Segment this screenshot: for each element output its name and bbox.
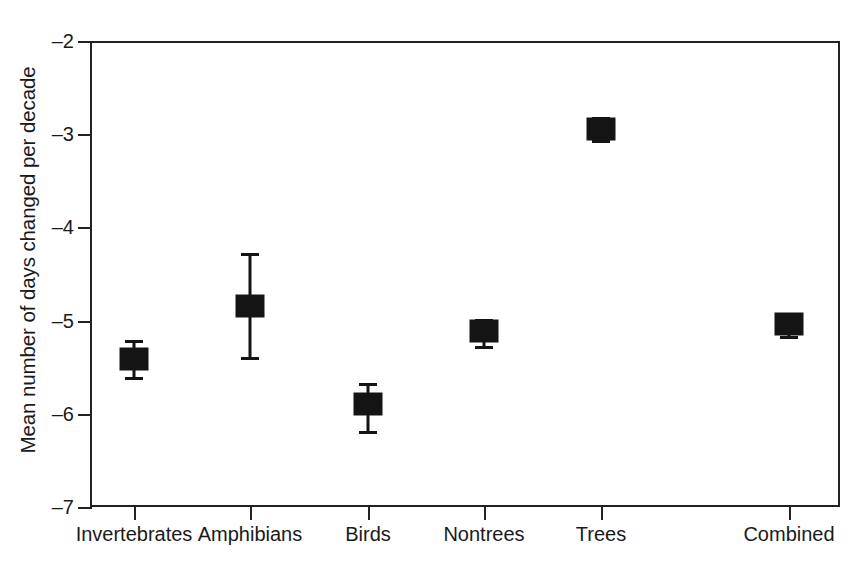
y-axis-tick [78, 41, 92, 43]
mean-marker [470, 319, 499, 342]
x-axis-tick-label-nontrees: Nontrees [443, 524, 524, 544]
y-axis-tick [78, 134, 92, 136]
error-bar-cap-upper [241, 253, 259, 256]
y-axis-tick [78, 227, 92, 229]
error-bar-cap-lower [592, 140, 610, 143]
plot-area-frame [90, 41, 840, 507]
mean-marker [775, 313, 804, 336]
y-axis-title-wrapper: Mean number of days changed per decade [0, 0, 56, 520]
y-axis-tick-label: –5 [38, 311, 74, 331]
y-axis-tick [78, 507, 92, 509]
figure-canvas: Mean number of days changed per decade –… [0, 0, 866, 564]
x-axis-tick [601, 507, 603, 520]
mean-marker [587, 117, 616, 140]
y-axis-tick [78, 321, 92, 323]
mean-marker [354, 393, 383, 416]
x-axis-tick-label-invertebrates: Invertebrates [76, 524, 193, 544]
y-axis-title: Mean number of days changed per decade [16, 66, 40, 453]
error-bar-cap-lower [359, 431, 377, 434]
y-axis-tick-label: –7 [38, 497, 74, 517]
y-axis-tick-label: –2 [38, 31, 74, 51]
error-bar-cap-lower [125, 377, 143, 380]
error-bar-cap-lower [780, 336, 798, 339]
mean-marker [120, 347, 149, 370]
x-axis-tick-label-combined: Combined [743, 524, 834, 544]
x-axis-tick [484, 507, 486, 520]
y-axis-tick [78, 414, 92, 416]
x-axis-tick [134, 507, 136, 520]
error-bar-cap-upper [125, 340, 143, 343]
error-bar-cap-upper [359, 383, 377, 386]
y-axis-tick-label: –4 [38, 217, 74, 237]
x-axis-tick-label-birds: Birds [345, 524, 391, 544]
x-axis-tick-label-trees: Trees [576, 524, 626, 544]
y-axis-tick-label: –3 [38, 124, 74, 144]
y-axis-tick-label: –6 [38, 404, 74, 424]
x-axis-tick [250, 507, 252, 520]
error-bar-cap-lower [475, 346, 493, 349]
x-axis-tick-label-amphibians: Amphibians [198, 524, 303, 544]
error-bar-cap-lower [241, 357, 259, 360]
x-axis-tick [368, 507, 370, 520]
mean-marker [236, 294, 265, 317]
x-axis-tick [789, 507, 791, 520]
